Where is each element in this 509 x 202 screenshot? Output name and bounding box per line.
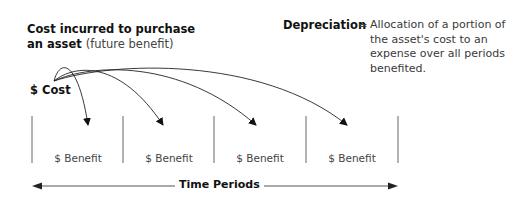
time-axis-right-arrowhead: [388, 183, 398, 190]
period-benefit-1: $ Benefit: [33, 152, 123, 164]
allocation-arrow-3: [54, 70, 256, 125]
time-periods-label: Time Periods: [175, 178, 264, 191]
time-axis-left-arrowhead: [32, 183, 42, 190]
allocation-arrow-2: [54, 70, 163, 125]
period-benefit-3: $ Benefit: [215, 152, 305, 164]
period-benefit-2: $ Benefit: [124, 152, 214, 164]
diagram-graphics: [0, 0, 509, 202]
period-benefit-4: $ Benefit: [307, 152, 397, 164]
allocation-arrow-4: [54, 68, 347, 125]
